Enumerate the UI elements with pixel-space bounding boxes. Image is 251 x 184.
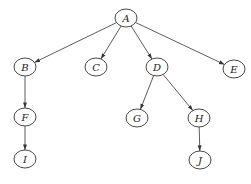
node-e: E	[223, 60, 245, 78]
edges	[25, 22, 224, 151]
node-label: D	[152, 62, 161, 73]
node-c: C	[85, 58, 107, 76]
node-a: A	[115, 9, 137, 27]
edge-a-e	[136, 22, 225, 64]
node-j: J	[189, 151, 211, 169]
node-f: F	[14, 108, 36, 126]
edge-a-c	[101, 26, 121, 59]
node-label: B	[20, 62, 28, 73]
edge-a-b	[34, 23, 116, 63]
node-label: H	[194, 113, 204, 124]
node-label: A	[121, 13, 129, 24]
node-label: F	[21, 112, 30, 123]
nodes: ABCDEFGHIJ	[14, 9, 245, 169]
edge-h-j	[199, 127, 200, 151]
node-h: H	[188, 109, 210, 127]
edge-d-h	[163, 74, 193, 110]
edge-d-g	[140, 76, 153, 110]
node-b: B	[14, 58, 36, 76]
node-label: E	[229, 64, 238, 75]
node-i: I	[14, 150, 36, 168]
node-label: C	[92, 62, 100, 73]
node-d: D	[146, 58, 168, 76]
node-label: J	[196, 155, 203, 166]
tree-diagram: ABCDEFGHIJ	[0, 0, 251, 184]
node-g: G	[126, 109, 148, 127]
edge-a-d	[131, 26, 152, 59]
node-label: G	[133, 113, 141, 124]
